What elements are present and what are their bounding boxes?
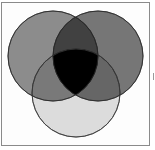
- venn-diagram: [0, 0, 155, 150]
- edge-mark: [153, 73, 154, 80]
